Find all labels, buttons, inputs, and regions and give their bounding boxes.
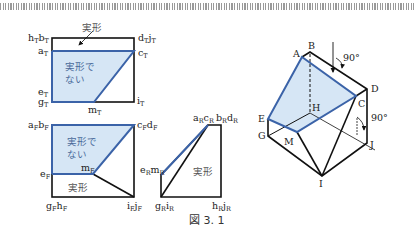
svg-text:J: J (369, 139, 374, 150)
not-true-shape-label-2: ない (65, 74, 85, 85)
svg-text:hRjR: hRjR (212, 200, 232, 213)
svg-text:iT: iT (137, 95, 145, 108)
svg-text:A: A (292, 48, 300, 59)
true-shape-label: 実形 (68, 182, 88, 193)
svg-text:B: B (308, 40, 315, 51)
svg-text:hTbT: hTbT (28, 32, 50, 45)
front-view: 実形で ない 実形 aFbF cFdF eF mF gFhF iFjF (28, 119, 158, 213)
svg-text:M: M (284, 136, 294, 147)
figure-3-1: 実形 実形で ない hTbT dTjT aT cT eT gT iT mT 実形… (0, 0, 414, 238)
svg-text:I: I (319, 178, 323, 189)
angle-arc-icon (336, 58, 342, 68)
svg-text:G: G (258, 130, 266, 141)
top-view: 実形 実形で ない hTbT dTjT aT cT eT gT iT mT (28, 22, 156, 117)
angle-label-top: 90° (343, 52, 360, 63)
svg-text:aFbF: aFbF (28, 119, 49, 132)
svg-text:gRiR: gRiR (155, 200, 175, 213)
angle-label-right: 90° (371, 112, 388, 123)
figure-caption: 図 3. 1 (189, 214, 225, 227)
svg-text:bRdR: bRdR (216, 112, 239, 125)
svg-text:iFjF: iFjF (127, 200, 143, 213)
svg-text:mT: mT (88, 104, 102, 117)
isometric-view: 90° 90° A B C D E G H I J M (258, 40, 388, 189)
svg-text:eRmR: eRmR (140, 164, 166, 177)
svg-text:D: D (371, 83, 379, 94)
svg-text:dTjT: dTjT (138, 32, 156, 45)
svg-text:cFdF: cFdF (137, 119, 158, 132)
svg-text:aRcR: aRcR (193, 112, 215, 125)
true-shape-label: 実形 (193, 166, 213, 177)
svg-text:cT: cT (138, 47, 148, 60)
not-true-shape-label: 実形で (67, 136, 97, 147)
not-true-shape-label-2: ない (67, 149, 87, 160)
svg-text:aT: aT (38, 45, 49, 58)
true-shape-label: 実形 (82, 22, 102, 33)
not-true-shape-label: 実形で (65, 61, 95, 72)
svg-text:E: E (258, 113, 265, 124)
angle-arc-icon (357, 117, 364, 130)
svg-text:eF: eF (40, 168, 51, 181)
svg-text:gFhF: gFhF (46, 200, 68, 213)
svg-text:C: C (358, 98, 365, 109)
svg-text:H: H (312, 102, 320, 113)
